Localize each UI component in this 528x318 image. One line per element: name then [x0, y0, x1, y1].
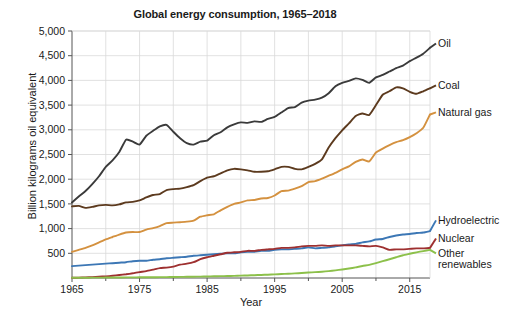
series-labels: OilCoalNatural gasHydroelectricNuclearOt…	[430, 37, 499, 270]
series-label-other-renewables: renewables	[438, 258, 492, 270]
y-tick-label: 500	[47, 247, 65, 259]
y-tick-label: 1,500	[39, 198, 65, 210]
series-label-coal: Coal	[438, 79, 460, 91]
series-label-hydroelectric: Hydroelectric	[438, 214, 499, 226]
y-tick-label: 3,000	[39, 123, 65, 135]
x-tick-label: 1965	[60, 283, 84, 295]
y-tick-label: 4,000	[39, 74, 65, 86]
energy-consumption-chart-figure: Global energy consumption, 1965–2018 Bil…	[0, 0, 528, 318]
x-tick-label: 2005	[331, 283, 355, 295]
gridlines	[72, 31, 430, 278]
y-tick-label: 3,500	[39, 99, 65, 111]
series-leader-line-hydroelectric	[430, 220, 436, 231]
series-leader-line-oil	[430, 43, 436, 47]
x-tick-label: 1985	[195, 283, 219, 295]
series-leader-line-coal	[430, 85, 436, 88]
x-tick-label: 1995	[263, 283, 287, 295]
series-leader-line-natural-gas	[430, 112, 436, 114]
y-tick-label: 1,000	[39, 222, 65, 234]
series-leader-line-nuclear	[430, 238, 436, 247]
y-tick-label: 2,000	[39, 173, 65, 185]
y-tick-label: 4,500	[39, 49, 65, 61]
series-label-nuclear: Nuclear	[438, 232, 475, 244]
x-axis-ticks: 196519751985199520052015	[60, 278, 421, 295]
series-label-natural-gas: Natural gas	[438, 106, 492, 118]
series-leader-line-other-renewables	[430, 250, 436, 254]
series-label-oil: Oil	[438, 37, 451, 49]
y-axis-ticks: 5001,0001,5002,0002,5003,0003,5004,0004,…	[39, 25, 72, 259]
x-tick-label: 2015	[398, 283, 422, 295]
x-tick-label: 1975	[128, 283, 152, 295]
y-tick-label: 5,000	[39, 25, 65, 37]
chart-plot-area: 5001,0001,5002,0002,5003,0003,5004,0004,…	[0, 0, 528, 318]
y-tick-label: 2,500	[39, 148, 65, 160]
